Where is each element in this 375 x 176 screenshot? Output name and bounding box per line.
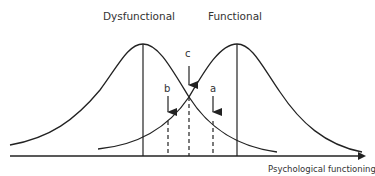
distribution-diagram: Dysfunctional Functional c b a Psycholog… — [0, 0, 375, 176]
marker-c-label: c — [185, 48, 191, 59]
marker-b-label: b — [164, 83, 170, 94]
functional-label: Functional — [208, 10, 262, 22]
dysfunctional-label: Dysfunctional — [103, 10, 175, 22]
functional-curve — [98, 44, 362, 152]
marker-a-label: a — [210, 83, 216, 94]
x-axis-label: Psychological functioning — [268, 164, 375, 174]
